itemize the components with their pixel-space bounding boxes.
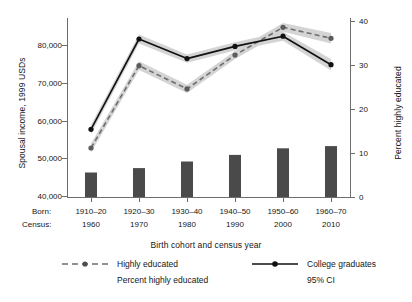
x-tickmark-3 [235,197,236,202]
x-axis-spine [67,197,351,198]
x-cohort-4: 1950–60 [258,207,308,216]
x-cohort-0: 1910–20 [66,207,116,216]
marker-college-graduates-4 [280,34,285,39]
bar-3 [229,155,241,197]
marker-highly-educated-2 [184,86,189,91]
x-row-label-born: Born: [32,207,51,216]
x-census-3: 1990 [210,220,260,229]
y-left-tick-60000: 60,000 [18,117,62,126]
marker-highly-educated-5 [328,36,333,41]
x-cohort-1: 1920–30 [114,207,164,216]
y-right-tick-0: 0 [359,193,393,202]
y-right-tick-20: 20 [359,105,393,114]
x-cohort-3: 1940–50 [210,207,260,216]
marker-college-graduates-1 [136,36,141,41]
marker-college-graduates-3 [232,44,237,49]
x-census-0: 1960 [66,220,116,229]
x-row-label-census: Census: [22,220,51,229]
bar-series-percent-highly-educated [85,146,337,197]
marker-highly-educated-3 [232,53,237,58]
y-axis-right-spine [350,18,351,197]
x-tickmark-0 [91,197,92,202]
y-axis-left-title: Spousal income, 1999 USDs [17,33,27,193]
x-tickmark-4 [283,197,284,202]
y-right-tick-10: 10 [359,149,393,158]
x-census-1: 1970 [114,220,164,229]
y-left-tick-40000: 40,000 [18,192,62,201]
bar-2 [181,162,193,198]
y-left-tick-80000: 80,000 [18,41,62,50]
chart-figure: Spousal income, 1999 USDs Percent highly… [0,0,412,302]
dashed-line-marker-icon [62,258,108,270]
marker-highly-educated-1 [136,63,141,68]
marker-highly-educated-0 [88,145,93,150]
legend-item-95-ci: 95% CI [252,274,335,286]
bar-swatch-icon [62,274,108,286]
legend-label-college-graduates: College graduates [307,259,376,269]
y-right-tick-40: 40 [359,17,393,26]
legend-item-college-graduates: College graduates [252,258,376,270]
x-census-4: 2000 [258,220,308,229]
marker-college-graduates-2 [184,56,189,61]
bar-5 [325,146,337,197]
x-tickmark-5 [331,197,332,202]
x-tickmark-1 [139,197,140,202]
bar-0 [85,173,97,198]
x-cohort-2: 1930–40 [162,207,212,216]
marker-highly-educated-4 [280,25,285,30]
marker-college-graduates-0 [88,127,93,132]
x-census-5: 2010 [306,220,356,229]
legend-label-percent-highly-educated: Percent highly educated [117,275,208,285]
legend-item-highly-educated: Highly educated [62,258,178,270]
x-tickmark-2 [187,197,188,202]
y-left-tick-50000: 50,000 [18,154,62,163]
solid-line-marker-icon [252,258,298,270]
bar-4 [277,148,289,197]
legend-label-95-ci: 95% CI [307,275,335,285]
legend-label-highly-educated: Highly educated [117,259,178,269]
x-census-2: 1980 [162,220,212,229]
x-axis-title: Birth cohort and census year [0,240,412,250]
plot-area [67,18,350,196]
legend-item-percent-highly-educated: Percent highly educated [62,274,208,286]
bar-1 [133,168,145,197]
x-cohort-5: 1960–70 [306,207,356,216]
marker-college-graduates-5 [328,62,333,67]
chart-legend: Highly educated College graduates Percen… [62,258,407,298]
y-right-tick-30: 30 [359,61,393,70]
y-axis-right-title: Percent highly educated [393,33,403,193]
y-left-tick-70000: 70,000 [18,79,62,88]
ci-band-swatch-icon [252,274,298,286]
